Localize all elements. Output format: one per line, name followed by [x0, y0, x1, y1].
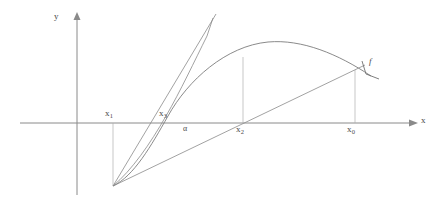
- x2-label: x2: [236, 125, 244, 135]
- x1-label-base: x: [105, 108, 110, 118]
- x0-label-base: x: [347, 124, 352, 134]
- x-axis-label: x: [421, 116, 426, 125]
- x0-label: x0: [347, 125, 355, 135]
- x1-label-subscript: 1: [110, 112, 114, 119]
- math-diagram-figure: y x x1 x3 α x2 x0 f: [0, 0, 439, 205]
- y-axis-label: y: [54, 12, 59, 21]
- x-axis-arrowhead: [409, 120, 418, 127]
- x0-label-subscript: 0: [352, 128, 356, 135]
- tangent-line-x3: [113, 14, 216, 186]
- y-axis-arrowhead: [74, 12, 81, 20]
- diagram-canvas: [0, 0, 439, 205]
- f-curve-label: f: [369, 57, 372, 66]
- x2-label-base: x: [236, 124, 241, 134]
- x3-label-base: x: [159, 108, 164, 118]
- x3-label: x3: [159, 109, 167, 119]
- alpha-angle-label: α: [183, 125, 187, 133]
- function-curve-f: [113, 42, 371, 186]
- x1-label: x1: [105, 109, 113, 119]
- x3-label-subscript: 3: [164, 112, 168, 119]
- x2-label-subscript: 2: [241, 128, 245, 135]
